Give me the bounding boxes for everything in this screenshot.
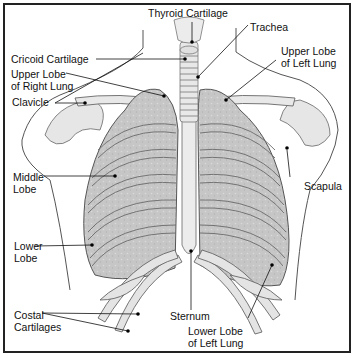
- thyroid-cartilage-shape: [174, 17, 204, 43]
- label-middle-lobe-line1: Middle: [13, 171, 44, 183]
- label-upper-lobe-left-line2: of Left Lung: [281, 57, 336, 69]
- label-trachea: Trachea: [250, 21, 288, 33]
- label-lower-lobe-left-line2: of Left Lung: [188, 337, 243, 349]
- label-upper-lobe-left-line1: Upper Lobe: [281, 45, 336, 57]
- cricoid-cartilage-shape: [180, 46, 198, 54]
- label-costal-cartilages-line1: Costal: [14, 309, 61, 321]
- label-lower-lobe-line2: Lobe: [14, 252, 43, 264]
- label-lower-lobe-left: Lower Lobe of Left Lung: [188, 325, 243, 349]
- label-middle-lobe-line2: Lobe: [13, 183, 44, 195]
- label-lower-lobe-left-line1: Lower Lobe: [188, 325, 243, 337]
- label-upper-lobe-left: Upper Lobe of Left Lung: [281, 45, 336, 69]
- label-lower-lobe-line1: Lower: [14, 240, 43, 252]
- label-clavicle: Clavicle: [12, 96, 49, 108]
- label-costal-cartilages: Costal Cartilages: [14, 309, 61, 333]
- label-upper-lobe-right: Upper Lobe of Right Lung: [11, 68, 73, 92]
- label-cricoid-cartilage: Cricoid Cartilage: [11, 53, 89, 65]
- label-upper-lobe-right-line2: of Right Lung: [11, 80, 73, 92]
- label-lower-lobe: Lower Lobe: [14, 240, 43, 264]
- sternum-bone: [182, 120, 196, 254]
- label-scapula: Scapula: [304, 180, 342, 192]
- label-middle-lobe: Middle Lobe: [13, 171, 44, 195]
- label-costal-cartilages-line2: Cartilages: [14, 321, 61, 333]
- label-sternum: Sternum: [170, 310, 210, 322]
- label-upper-lobe-right-line1: Upper Lobe: [11, 68, 73, 80]
- label-thyroid-cartilage: Thyroid Cartilage: [148, 7, 228, 19]
